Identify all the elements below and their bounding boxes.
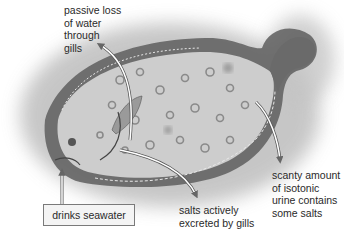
label-salts-excreted: salts actively excreted by gills [179,204,254,229]
label-gills-water-loss: passive loss of water through gills [64,4,121,54]
eye [68,138,76,146]
label-urine: scanty amount of isotonic urine contains… [272,169,340,219]
label-drinks-seawater: drinks seawater [52,209,126,221]
osmoregulation-diagram: passive loss of water through gills scan… [0,0,344,235]
label-drinks-seawater-box: drinks seawater [43,204,135,226]
